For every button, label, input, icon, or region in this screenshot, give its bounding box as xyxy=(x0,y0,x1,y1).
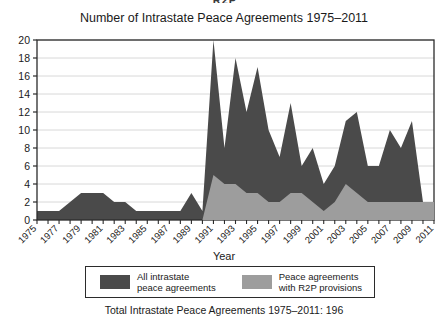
svg-text:1975: 1975 xyxy=(16,223,39,246)
svg-text:2005: 2005 xyxy=(347,223,370,246)
svg-text:1991: 1991 xyxy=(192,223,215,246)
svg-text:2011: 2011 xyxy=(413,223,435,245)
svg-text:1985: 1985 xyxy=(126,223,149,246)
legend-label-line2: with R2P provisions xyxy=(279,282,362,293)
legend-label-line1: All intrastate xyxy=(137,271,189,282)
legend-item-r2p: Peace agreements with R2P provisions xyxy=(242,271,362,293)
legend-label-r2p: Peace agreements with R2P provisions xyxy=(279,271,362,293)
svg-text:1979: 1979 xyxy=(60,223,83,246)
legend-item-all-intrastate: All intrastate peace agreements xyxy=(100,271,216,293)
svg-text:10: 10 xyxy=(18,124,30,136)
x-axis-label: Year xyxy=(0,250,448,262)
svg-text:4: 4 xyxy=(24,178,30,190)
y-axis-ticks: 02468101214161820 xyxy=(18,34,37,226)
svg-text:1997: 1997 xyxy=(258,223,281,246)
legend-label-all-intrastate: All intrastate peace agreements xyxy=(137,271,216,293)
svg-text:8: 8 xyxy=(24,142,30,154)
svg-text:1981: 1981 xyxy=(82,223,105,246)
svg-text:1993: 1993 xyxy=(214,223,237,246)
svg-text:1989: 1989 xyxy=(170,223,193,246)
x-axis-ticks: 1975197719791981198319851987198919911993… xyxy=(16,220,436,245)
svg-text:2009: 2009 xyxy=(391,223,414,246)
chart-figure: R2P Number of Intrastate Peace Agreement… xyxy=(0,0,448,330)
svg-text:2: 2 xyxy=(24,196,30,208)
svg-text:16: 16 xyxy=(18,70,30,82)
chart-legend: All intrastate peace agreements Peace ag… xyxy=(85,266,375,298)
svg-text:1977: 1977 xyxy=(38,223,61,246)
legend-swatch-dark xyxy=(100,275,130,289)
svg-text:1987: 1987 xyxy=(148,223,171,246)
svg-text:2007: 2007 xyxy=(369,223,392,246)
svg-text:1999: 1999 xyxy=(280,223,303,246)
legend-label-line2: peace agreements xyxy=(137,282,216,293)
svg-text:6: 6 xyxy=(24,160,30,172)
total-agreements-caption: Total Intrastate Peace Agreements 1975–2… xyxy=(0,304,448,316)
svg-text:20: 20 xyxy=(18,34,30,46)
legend-label-line1: Peace agreements xyxy=(279,271,359,282)
svg-text:2003: 2003 xyxy=(324,223,347,246)
svg-text:14: 14 xyxy=(18,88,30,100)
svg-text:1983: 1983 xyxy=(104,223,127,246)
legend-swatch-light xyxy=(242,275,272,289)
svg-text:12: 12 xyxy=(18,106,30,118)
svg-text:1995: 1995 xyxy=(236,223,259,246)
svg-text:2001: 2001 xyxy=(302,223,325,246)
svg-text:18: 18 xyxy=(18,52,30,64)
